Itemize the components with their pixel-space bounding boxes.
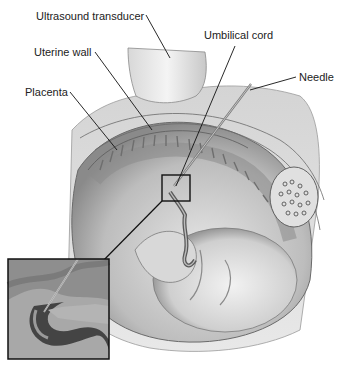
ultrasound-transducer-shape	[128, 48, 206, 103]
label-uterine-wall: Uterine wall	[34, 46, 91, 59]
label-ultrasound-transducer: Ultrasound transducer	[36, 10, 144, 23]
label-needle: Needle	[299, 71, 334, 84]
leader-needle	[250, 77, 296, 90]
inset-magnified-view	[8, 259, 109, 359]
bowel-oval	[270, 167, 318, 227]
label-placenta: Placenta	[25, 86, 68, 99]
label-umbilical-cord: Umbilical cord	[204, 29, 273, 42]
